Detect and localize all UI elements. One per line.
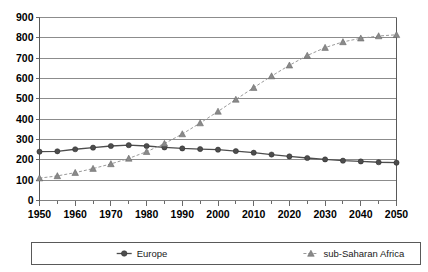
legend-item-label: sub-Saharan Africa [323, 248, 405, 259]
x-axis-tick-label: 1980 [135, 208, 159, 220]
data-point-marker [90, 145, 95, 150]
x-axis-tick-label: 2040 [349, 208, 373, 220]
x-axis-tick-label: 2050 [385, 208, 409, 220]
data-point-marker [305, 155, 310, 160]
data-point-marker [269, 152, 274, 157]
line-chart: 0100200300400500600700800900 19501960197… [0, 0, 428, 272]
y-axis-tick-label: 0 [28, 194, 34, 206]
x-axis-tick-label: 2000 [206, 208, 230, 220]
data-point-marker [108, 143, 113, 148]
y-axis-tick-label: 400 [16, 113, 34, 125]
y-axis-tick-label: 200 [16, 153, 34, 165]
data-point-marker [73, 147, 78, 152]
x-axis-tick-label: 1950 [28, 208, 52, 220]
x-axis-tick-label: 1990 [171, 208, 195, 220]
legend-item-label: Europe [137, 248, 168, 259]
data-point-marker [144, 143, 149, 148]
y-axis-tick-label: 600 [16, 72, 34, 84]
x-axis-tick-label: 1960 [64, 208, 88, 220]
x-axis-tick-label: 2020 [278, 208, 302, 220]
legend-marker-icon [121, 251, 127, 257]
data-point-marker [198, 146, 203, 151]
data-point-marker [126, 143, 131, 148]
data-point-marker [37, 149, 42, 154]
y-axis-tick-label: 500 [16, 92, 34, 104]
data-point-marker [394, 160, 399, 165]
data-point-marker [251, 150, 256, 155]
data-point-marker [55, 149, 60, 154]
data-point-marker [215, 147, 220, 152]
data-point-marker [180, 146, 185, 151]
y-axis-tick-label: 300 [16, 133, 34, 145]
y-axis-tick-label: 700 [16, 52, 34, 64]
data-point-marker [376, 160, 381, 165]
chart-svg: 0100200300400500600700800900 19501960197… [0, 0, 428, 272]
x-axis-tick-label: 2030 [313, 208, 337, 220]
x-axis-tick-label: 1970 [99, 208, 123, 220]
data-point-marker [358, 159, 363, 164]
x-axis-labels: 1950196019701980199020002010202020302040… [28, 208, 409, 220]
data-point-marker [233, 148, 238, 153]
x-axis-tick-label: 2010 [242, 208, 266, 220]
data-point-marker [323, 157, 328, 162]
chart-container: 0100200300400500600700800900 19501960197… [0, 0, 428, 272]
y-axis-tick-label: 800 [16, 31, 34, 43]
y-axis-tick-label: 900 [16, 11, 34, 23]
chart-legend: Europesub-Saharan Africa [32, 243, 421, 265]
data-point-marker [287, 154, 292, 159]
y-axis-tick-label: 100 [16, 174, 34, 186]
data-point-marker [340, 158, 345, 163]
